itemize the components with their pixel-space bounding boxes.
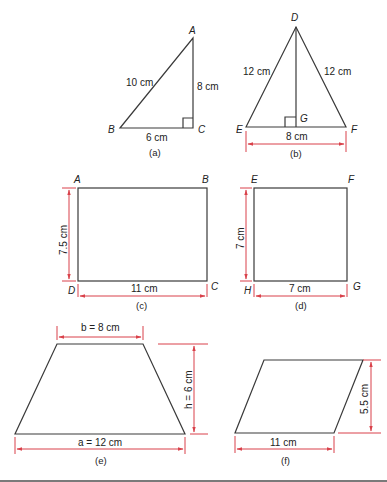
caption-e: (e) <box>95 455 107 466</box>
right-side-label: 12 cm <box>324 66 351 77</box>
caption-c: (c) <box>136 300 147 311</box>
height-label: 5.5 cm <box>359 384 370 414</box>
figure-b-isosceles-triangle: D E F G 12 cm 12 cm 8 cm (b) <box>236 12 358 159</box>
figure-d-square: E F G H 7 cm 7 cm (d) <box>235 174 361 311</box>
vertex-c: C <box>211 281 219 292</box>
figure-a-right-triangle: A B C 10 cm 8 cm 6 cm (a) <box>108 25 219 158</box>
caption-f: (f) <box>281 455 290 466</box>
trapezium-shape <box>15 344 185 434</box>
vertex-f: F <box>351 124 358 135</box>
vertex-d: D <box>68 285 75 296</box>
parallelogram-shape <box>235 360 363 433</box>
base-label: 11 cm <box>270 437 297 448</box>
vertex-e: E <box>236 124 243 135</box>
base-label: 6 cm <box>146 132 168 143</box>
geometry-figures: A B C 10 cm 8 cm 6 cm (a) D E F G 12 cm … <box>0 0 387 482</box>
vertex-f: F <box>348 174 355 185</box>
vertex-d: D <box>291 12 298 23</box>
base-label: 8 cm <box>286 131 308 142</box>
square-efgh <box>254 188 347 281</box>
bottom-label: a = 12 cm <box>78 437 122 448</box>
vertex-h: H <box>244 285 252 296</box>
vertical-side-label: 8 cm <box>197 81 219 92</box>
caption-b: (b) <box>290 148 302 159</box>
vertex-g: G <box>300 113 308 124</box>
right-angle-marker <box>285 117 296 127</box>
vertex-a: A <box>188 25 196 36</box>
caption-d: (d) <box>295 300 307 311</box>
top-label: b = 8 cm <box>81 322 120 333</box>
figure-f-parallelogram: 5.5 cm 11 cm (f) <box>235 360 381 466</box>
width-label: 7 cm <box>289 283 311 294</box>
vertex-c: C <box>198 124 206 135</box>
figure-c-rectangle: A B C D 7.5 cm 11 cm (c) <box>58 174 219 311</box>
caption-a: (a) <box>149 147 161 158</box>
hypotenuse-label: 10 cm <box>126 77 153 88</box>
height-label: h = 6 cm <box>183 370 194 409</box>
figure-e-trapezium: b = 8 cm h = 6 cm a = 12 cm (e) <box>15 322 208 466</box>
left-side-label: 12 cm <box>243 66 270 77</box>
right-angle-marker <box>183 118 193 128</box>
height-label: 7 cm <box>235 227 246 249</box>
rectangle-abcd <box>78 188 207 281</box>
vertex-g: G <box>353 281 361 292</box>
vertex-b: B <box>202 174 209 185</box>
height-label: 7.5 cm <box>58 225 69 255</box>
vertex-b: B <box>108 124 115 135</box>
width-label: 11 cm <box>131 283 158 294</box>
vertex-a: A <box>73 174 81 185</box>
vertex-e: E <box>251 174 258 185</box>
